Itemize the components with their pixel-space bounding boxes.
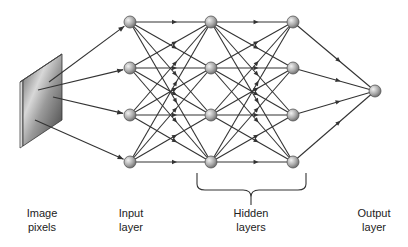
image-to-input-edge: [49, 26, 124, 82]
image-to-input-edge: [53, 97, 123, 113]
arrowhead-icon: [254, 20, 259, 24]
hidden2-node: [287, 156, 299, 168]
image-pixels-panel: [20, 54, 62, 148]
input-node: [124, 62, 136, 74]
arrowhead-icon: [172, 113, 177, 117]
arrowhead-icon: [254, 160, 259, 164]
input-node: [124, 156, 136, 168]
connection-edge: [293, 91, 375, 162]
input-node: [124, 109, 136, 121]
network-edges: [35, 20, 375, 164]
arrowhead-icon: [118, 26, 124, 31]
image-pixels-label: Image pixels: [18, 206, 66, 234]
hidden1-node: [205, 156, 217, 168]
hidden1-node: [205, 62, 217, 74]
connection-edge: [293, 22, 375, 91]
hidden1-node: [205, 16, 217, 28]
connection-edge: [293, 68, 375, 91]
output-layer-label: Output layer: [347, 206, 401, 234]
input-node: [124, 16, 136, 28]
arrowhead-icon: [117, 155, 123, 160]
hidden-layers-brace: [197, 173, 306, 205]
image-to-input-edge: [35, 120, 124, 159]
hidden-layers-label: Hidden layers: [222, 206, 280, 234]
output-node: [369, 85, 381, 97]
arrowhead-icon: [335, 100, 340, 104]
hidden2-node: [287, 109, 299, 121]
connection-edge: [293, 91, 375, 115]
hidden2-node: [287, 16, 299, 28]
arrowhead-icon: [172, 20, 177, 24]
arrowhead-icon: [172, 160, 177, 164]
hidden2-node: [287, 62, 299, 74]
arrowhead-icon: [254, 113, 259, 117]
hidden1-node: [205, 109, 217, 121]
input-layer-label: Input layer: [107, 206, 155, 234]
